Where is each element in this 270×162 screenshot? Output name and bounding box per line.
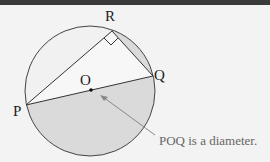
label-O: O xyxy=(80,73,91,88)
label-Q: Q xyxy=(154,68,165,83)
label-R: R xyxy=(105,9,115,24)
center-point xyxy=(89,88,93,92)
annotation-text: POQ is a diameter. xyxy=(159,134,257,147)
label-P: P xyxy=(13,104,21,119)
